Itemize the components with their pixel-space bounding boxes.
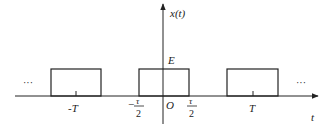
svg-text:−: − (128, 98, 134, 110)
x-axis-label: t (311, 111, 315, 123)
T-label: T (249, 102, 256, 114)
minus-tau-over-2-label: − τ 2 (128, 96, 144, 119)
svg-text:τ: τ (136, 96, 140, 106)
origin-label: O (166, 99, 174, 111)
svg-text:2: 2 (189, 108, 194, 119)
pulse-train-diagram: x(t) t E O -T T − τ 2 τ 2 ··· ··· (0, 0, 326, 129)
continuation-left: ··· (23, 77, 33, 88)
continuation-right: ··· (296, 77, 306, 88)
tau-over-2-label: τ 2 (187, 96, 197, 119)
y-axis-label: x(t) (169, 7, 186, 20)
svg-text:τ: τ (189, 96, 193, 106)
amplitude-label: E (167, 54, 175, 66)
svg-text:2: 2 (136, 108, 141, 119)
minus-T-label: -T (68, 102, 79, 114)
pulse-center (139, 69, 189, 96)
